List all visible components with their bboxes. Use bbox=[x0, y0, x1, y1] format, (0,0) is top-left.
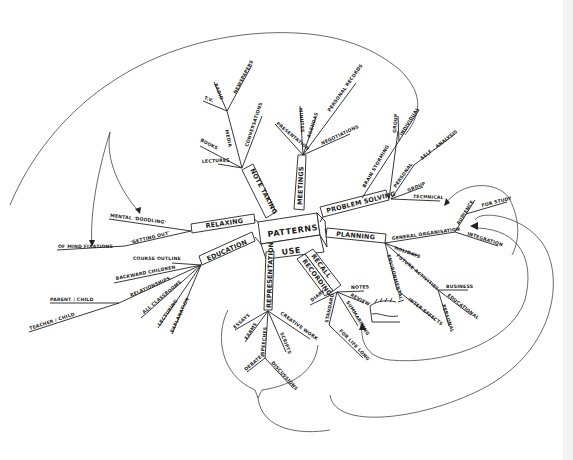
leaf-parent-child: PARENT / CHILD bbox=[50, 297, 94, 302]
leaf-exams: EXAMS bbox=[244, 322, 258, 341]
leaf-newspapers: NEWSPAPERS bbox=[232, 59, 254, 94]
leaf-personal: PERSONAL bbox=[393, 162, 414, 189]
leaf-self-analysis: SELF - ANALYSIS bbox=[420, 129, 459, 161]
leaf-brain-storming: BRAIN STORMING bbox=[362, 144, 391, 188]
leaf-agendas: AGENDAS bbox=[306, 112, 319, 139]
leaf-course-outline: COURSE OUTLINE bbox=[133, 256, 181, 261]
leaf-minutes: MINUTES bbox=[298, 108, 305, 133]
leaf-debates: DEBATES bbox=[243, 352, 265, 372]
leaf-lectures: LECTURES bbox=[202, 158, 230, 164]
leaf-discussions: DISCUSSIONS bbox=[270, 360, 299, 391]
planning-label: PLANNING bbox=[336, 230, 376, 241]
branch-meetings: MEETINGS PRESENTATION MINUTES AGENDAS PE… bbox=[275, 63, 364, 210]
leaf-technical: TECHNICAL bbox=[413, 194, 444, 200]
leaf-for-study: FOR STUDY bbox=[481, 196, 513, 208]
leaf-educational: EDUCATIONAL bbox=[446, 293, 479, 321]
leaf-group: GROUP bbox=[407, 181, 427, 193]
right-outer-loop bbox=[330, 215, 553, 417]
branch-note-taking: NOTE TAKING LECTURES BOOKS MEDIA CONVERS… bbox=[200, 59, 280, 218]
leaf-teacher-child: TEACHER / CHILD bbox=[29, 312, 75, 331]
leaf-inter-effects: INTER-EFFECTS bbox=[407, 297, 443, 327]
leaf-of-mind-fixations: OF MIND FIXATIONS bbox=[58, 244, 113, 249]
leaf-radio: RADIO bbox=[213, 83, 224, 101]
leaf-negotiations: NEGOTIATIONS bbox=[320, 124, 359, 146]
leaf-integration: INTEGRATION bbox=[467, 231, 504, 247]
arrowhead-integration bbox=[470, 222, 478, 230]
leaf-books: BOOKS bbox=[200, 137, 219, 150]
leaf-future-activities: FUTURE ACTIVITIES bbox=[395, 253, 439, 291]
leaf-speeches: SPEECHES bbox=[260, 327, 268, 356]
leaf-essays: ESSAYS bbox=[232, 312, 251, 329]
writing-hand-sketch bbox=[370, 298, 404, 322]
mind-map-canvas: PATTERNS USE NOTE TAKING LECTURES BOOKS … bbox=[0, 0, 573, 460]
arrow-to-fixations bbox=[92, 132, 110, 245]
bottom-tail bbox=[258, 398, 330, 432]
leaf-notes: NOTES bbox=[351, 284, 370, 290]
outer-arc bbox=[10, 33, 418, 205]
leaf-getting-out: 'GETTING OUT' bbox=[130, 230, 170, 245]
leaf-group-bs: GROUP bbox=[392, 113, 399, 133]
leaf-general-organisation: GENERAL ORGANISATION bbox=[391, 226, 460, 241]
branch-problem-solving: PROBLEM SOLVING BRAIN STORMING GROUP IND… bbox=[320, 107, 458, 217]
leaf-business: BUSINESS bbox=[446, 284, 473, 289]
meetings-label: MEETINGS bbox=[296, 166, 305, 205]
leaf-conversations: CONVERSATIONS bbox=[244, 102, 263, 148]
leaf-diary: DIARY bbox=[310, 288, 327, 303]
representation-label: REPRESENTATION bbox=[265, 242, 275, 308]
arrow-to-doodling bbox=[109, 132, 139, 212]
branch-recall: RECALL RECORDING DIARY NOTES REVIEW SUMM… bbox=[297, 249, 371, 362]
leaf-personal-records: PERSONAL RECORDS bbox=[327, 63, 364, 113]
leaf-personal-planning: PERSONAL bbox=[441, 304, 455, 333]
leaf-media: MEDIA bbox=[224, 129, 233, 148]
leaf-individual: INDIVIDUAL bbox=[399, 107, 420, 137]
